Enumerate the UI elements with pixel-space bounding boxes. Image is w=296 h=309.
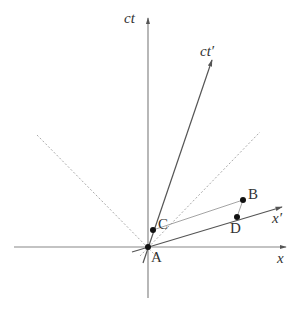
point-d-label: D <box>230 220 241 236</box>
point-a-label: A <box>151 249 162 265</box>
spacetime-diagram: ct ct′ x x′ A B C D <box>0 0 296 309</box>
x-axis-label: x <box>276 250 284 266</box>
x-prime-axis-label: x′ <box>271 210 283 226</box>
light-cone-left-line <box>37 135 156 256</box>
ct-prime-axis-label: ct′ <box>200 43 215 59</box>
light-cone-right-line <box>140 132 260 256</box>
point-c-label: C <box>158 216 168 232</box>
point-b <box>240 197 246 203</box>
point-b-label: B <box>248 186 258 202</box>
point-c <box>150 227 156 233</box>
ct-axis-label: ct <box>124 10 136 26</box>
